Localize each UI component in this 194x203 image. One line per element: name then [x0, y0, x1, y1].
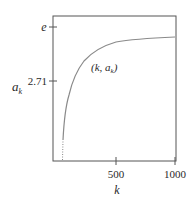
- y-tick-label-e: e: [41, 20, 47, 34]
- y-axis-label: ak: [12, 79, 23, 96]
- sequence-curve: [63, 37, 175, 140]
- point-label-close: ): [113, 61, 118, 74]
- x-tick-label-1000: 1000: [164, 168, 187, 180]
- x-tick-label-500: 500: [108, 168, 125, 180]
- point-label-open: (k, a: [91, 61, 111, 74]
- sequence-curve-dotted: [63, 140, 64, 160]
- y-axis-label-sub: k: [19, 87, 23, 96]
- sequence-chart: e 2.71 500 1000 ak k (k, ak): [0, 0, 194, 203]
- y-tick-label-271: 2.71: [28, 75, 47, 87]
- point-annotation: (k, ak): [91, 61, 118, 75]
- x-axis-label: k: [114, 183, 120, 197]
